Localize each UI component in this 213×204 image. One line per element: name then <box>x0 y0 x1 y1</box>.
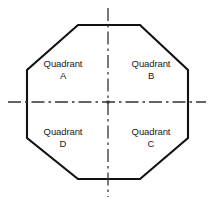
quadrant-label-c: Quadrant C <box>120 126 182 150</box>
center-point-marker <box>107 101 110 104</box>
quadrant-c-word: Quadrant <box>120 126 182 138</box>
octagon-quadrant-diagram: Quadrant A Quadrant B Quadrant D Quadran… <box>0 0 213 204</box>
quadrant-label-d: Quadrant D <box>32 126 94 150</box>
quadrant-d-word: Quadrant <box>32 126 94 138</box>
quadrant-label-a: Quadrant A <box>32 58 94 82</box>
quadrant-label-b: Quadrant B <box>120 58 182 82</box>
quadrant-c-letter: C <box>120 138 182 150</box>
quadrant-a-word: Quadrant <box>32 58 94 70</box>
quadrant-a-letter: A <box>32 70 94 82</box>
diagram-canvas <box>0 0 213 204</box>
quadrant-b-word: Quadrant <box>120 58 182 70</box>
quadrant-d-letter: D <box>32 138 94 150</box>
quadrant-b-letter: B <box>120 70 182 82</box>
